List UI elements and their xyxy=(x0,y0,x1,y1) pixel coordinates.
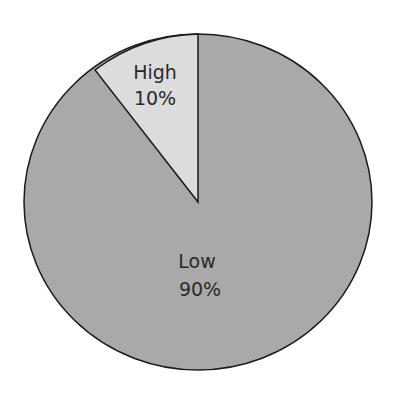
label-low-name: Low xyxy=(178,250,215,272)
label-high-name: High xyxy=(133,61,177,83)
pie-chart: High 10% Low 90% xyxy=(0,0,394,395)
label-high-pct: 10% xyxy=(134,87,176,109)
label-low-pct: 90% xyxy=(179,278,221,300)
